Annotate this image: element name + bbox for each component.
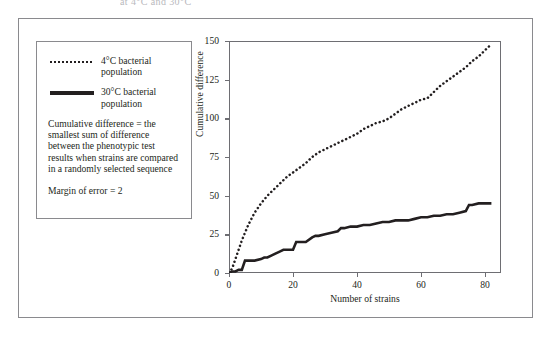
legend-entry-4c: 4°C bacterial population (48, 55, 182, 77)
y-tick-mark (225, 196, 229, 197)
x-tick-mark (421, 273, 422, 277)
figure-outer-frame: 4°C bacterial population 30°C bacterial … (18, 18, 533, 318)
x-tick-label: 60 (408, 279, 434, 290)
series-line-30c (229, 203, 491, 273)
legend-box: 4°C bacterial population 30°C bacterial … (36, 41, 192, 219)
y-tick-label: 50 (193, 190, 219, 201)
y-tick-mark (225, 80, 229, 81)
solid-line-swatch (48, 86, 94, 100)
x-tick-mark (229, 273, 230, 277)
y-tick-mark (225, 157, 229, 158)
legend-margin-of-error: Margin of error = 2 (48, 185, 182, 196)
y-tick-label: 25 (193, 228, 219, 239)
x-tick-label: 40 (344, 279, 370, 290)
x-tick-label: 20 (280, 279, 306, 290)
x-tick-mark (357, 273, 358, 277)
y-tick-label: 100 (193, 112, 219, 123)
y-tick-mark (225, 234, 229, 235)
dotted-line-swatch (48, 55, 94, 69)
x-axis-title: Number of strains (229, 293, 501, 304)
legend-entry-30c-label: 30°C bacterial population (101, 86, 182, 108)
x-tick-mark (485, 273, 486, 277)
truncated-figure-title: at 4°C and 30°C (120, 0, 380, 8)
y-tick-mark (225, 118, 229, 119)
y-tick-mark (225, 41, 229, 42)
y-tick-label: 0 (193, 267, 219, 278)
y-tick-label: 125 (193, 74, 219, 85)
x-tick-label: 80 (472, 279, 498, 290)
legend-entry-4c-label: 4°C bacterial population (101, 55, 182, 77)
y-tick-label: 150 (193, 35, 219, 46)
series-line-4c (229, 44, 491, 273)
legend-definition-note: Cumulative difference = the smallest sum… (48, 118, 182, 174)
x-tick-mark (293, 273, 294, 277)
x-tick-label: 0 (216, 279, 242, 290)
plot-wrapper: Cumulative difference 0255075100125150 0… (196, 41, 526, 313)
y-axis-title: Cumulative difference (194, 51, 205, 137)
chart-canvas (229, 41, 501, 273)
y-tick-label: 75 (193, 151, 219, 162)
legend-entry-30c: 30°C bacterial population (48, 86, 182, 108)
